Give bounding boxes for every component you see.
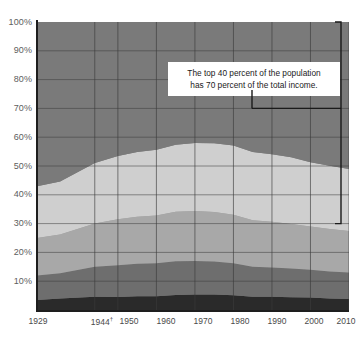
annotation-callout: The top 40 percent of the population has… bbox=[168, 62, 340, 96]
x-axis-tick-label: 1960 bbox=[148, 316, 184, 326]
x-axis-tick-label: 1980 bbox=[222, 316, 258, 326]
y-axis-tick-label: 70% bbox=[0, 103, 32, 113]
income-distribution-area-chart: 100% 90% 80% 70% 60% 50% 40% 30% 20% 10%… bbox=[0, 0, 363, 340]
x-axis-tick-label: 2000 bbox=[296, 316, 332, 326]
x-axis-tick-label: 1950 bbox=[111, 316, 147, 326]
x-axis-tick-label: 1929 bbox=[20, 316, 56, 326]
y-axis-tick-label: 90% bbox=[0, 45, 32, 55]
y-axis-tick-label: 60% bbox=[0, 132, 32, 142]
y-axis-tick-label: 50% bbox=[0, 161, 32, 171]
annotation-line-2: has 70 percent of the total income. bbox=[172, 79, 336, 91]
y-axis-line bbox=[36, 20, 38, 312]
x-axis-tick-label: 2010 bbox=[328, 316, 363, 326]
y-axis-tick-label: 30% bbox=[0, 218, 32, 228]
x-axis-tick-label: 1970 bbox=[185, 316, 221, 326]
y-axis-tick-label: 40% bbox=[0, 189, 32, 199]
y-axis-tick-label: 80% bbox=[0, 74, 32, 84]
y-axis-tick-label: 20% bbox=[0, 247, 32, 257]
x-tick-text: 1944 bbox=[91, 317, 110, 327]
x-axis-line bbox=[36, 310, 349, 312]
y-axis-tick-label: 100% bbox=[0, 17, 32, 27]
x-axis-tick-label: 1990 bbox=[259, 316, 295, 326]
annotation-line-1: The top 40 percent of the population bbox=[172, 67, 336, 79]
y-axis-tick-label: 10% bbox=[0, 276, 32, 286]
